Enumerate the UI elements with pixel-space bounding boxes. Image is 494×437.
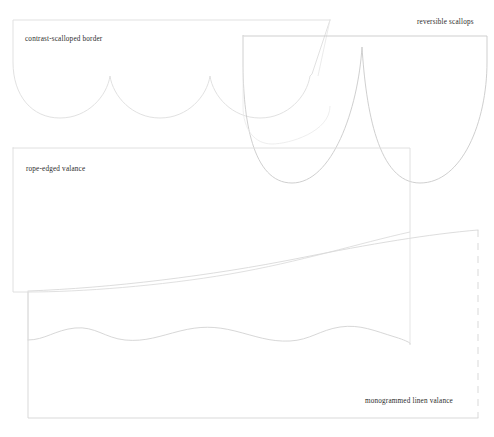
panel-label-contrast-scalloped-border: contrast-scalloped border <box>25 36 102 43</box>
sketch-layer <box>0 0 494 437</box>
panel-sweep-rope-edge <box>28 230 478 291</box>
panel-label-monogrammed-linen-valance: monogrammed linen valance <box>365 398 453 405</box>
valance-sketch-board: contrast-scalloped border reversible sca… <box>0 0 494 437</box>
panel-label-reversible-scallops: reversible scallops <box>417 19 474 26</box>
panel-outline-reversible-scallops[interactable] <box>243 36 487 183</box>
panel-edge-contrast-right <box>318 20 330 76</box>
wavy-rope-edge <box>28 326 410 344</box>
panel-inner-reversible-box <box>243 36 330 144</box>
panel-label-rope-edged-valance: rope-edged valance <box>26 166 85 173</box>
